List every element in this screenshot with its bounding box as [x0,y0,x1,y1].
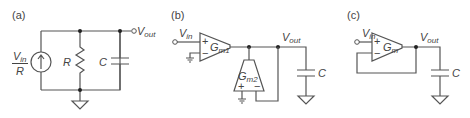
panel-c: (c) Vin + − Gm C Vout [347,9,460,104]
amp-plus: + [374,35,380,47]
vout-label: Vout [137,25,156,39]
output-terminal-icon [132,29,137,34]
vout-label: Vout [420,31,439,45]
panel-c-label: (c) [347,9,360,21]
resistor-icon [76,31,84,90]
ground-icon [72,90,88,109]
panel-b-label: (b) [171,9,184,21]
source-denominator: R [16,65,24,77]
capacitor-icon [431,70,449,76]
ground-icon [432,96,448,104]
node-dot [78,88,82,92]
output-wire [402,47,440,96]
node-dot [118,29,122,33]
panel-a: (a) Vout Vin R R C [12,9,156,109]
capacitor-icon [297,70,315,76]
ground-icon [238,91,246,103]
circuit-diagram: (a) Vout Vin R R C (b) Vin + − [0,0,470,118]
resistor-label: R [63,56,71,68]
panel-a-label: (a) [12,9,25,21]
capacitor-label: C [99,56,107,68]
vout-label: Vout [282,31,301,45]
arrow-up-icon [38,55,44,69]
amp2-plus: + [238,80,244,92]
feedback-wire [256,47,278,101]
ground-icon [298,96,314,104]
capacitor-label: C [452,67,460,79]
input-terminal-icon [355,40,360,45]
panel-b: (b) Vin + − Gm1 C Vout Gm2 + − [171,9,326,104]
amp1-minus: − [202,47,208,59]
node-dot [414,45,418,49]
source-numerator: Vin [13,50,27,64]
amp1-plus: + [202,35,208,47]
vin-label: Vin [179,27,193,41]
input-terminal-icon [173,40,178,45]
amp2-minus: − [254,80,260,92]
node-dot [78,29,82,33]
ground-icon [186,53,200,62]
capacitor-label: C [318,67,326,79]
amp-minus: − [374,47,380,59]
